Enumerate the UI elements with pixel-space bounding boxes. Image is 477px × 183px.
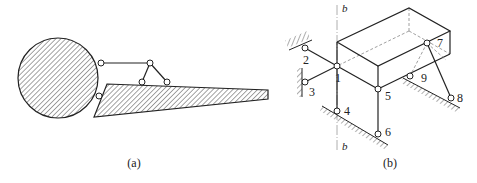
joint-wedge-right — [164, 79, 170, 85]
joint-9 — [407, 73, 413, 79]
joint-wedge-left — [139, 79, 145, 85]
joint-label-2: 2 — [303, 53, 309, 67]
joint-3 — [302, 79, 308, 85]
joint-1 — [334, 63, 340, 69]
joint-label-1: 1 — [335, 71, 341, 85]
joint-4 — [334, 108, 340, 114]
axis-label-top: b — [342, 2, 348, 14]
joint-triangle-apex — [147, 60, 153, 66]
box-bottom-front-edge — [337, 66, 378, 89]
joint-7 — [424, 40, 430, 46]
joint-label-3: 3 — [309, 85, 315, 99]
link-leg-right — [150, 63, 167, 82]
joint-label-5: 5 — [385, 89, 391, 103]
link-1-3 — [305, 66, 337, 82]
hatched-wedge-body — [94, 84, 268, 117]
joint-circle-top — [98, 60, 104, 66]
joint-2 — [302, 45, 308, 51]
panel-a: (a) — [18, 38, 268, 170]
joint-label-9: 9 — [421, 71, 427, 85]
axis-label-bottom: b — [342, 140, 348, 152]
caption-b: (b) — [383, 156, 397, 170]
hatched-circle-body — [18, 38, 98, 118]
caption-a: (a) — [127, 156, 140, 170]
joint-label-8: 8 — [457, 91, 463, 105]
joint-8 — [448, 95, 454, 101]
joint-label-7: 7 — [437, 36, 443, 50]
joint-label-6: 6 — [385, 125, 391, 139]
link-7-8 — [427, 43, 451, 98]
panel-b: b b — [285, 2, 463, 170]
joint-circle-bottom — [96, 93, 102, 99]
joint-5 — [375, 86, 381, 92]
joint-label-4: 4 — [344, 104, 350, 118]
diagram-canvas: (a) b b — [0, 0, 477, 183]
joint-6 — [375, 131, 381, 137]
figure: (a) b b — [0, 0, 477, 183]
link-1-2 — [305, 48, 337, 66]
ground-hatch-3 — [297, 68, 302, 97]
